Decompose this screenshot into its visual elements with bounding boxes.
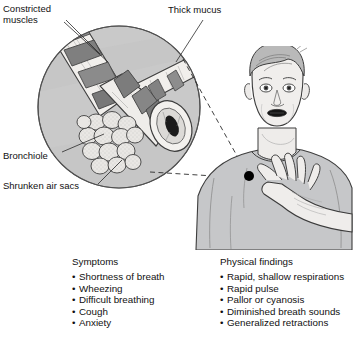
list-item: Rapid, shallow respirations: [220, 271, 359, 283]
physical-findings-column: Physical findings Rapid, shallow respira…: [220, 256, 359, 329]
head: [245, 43, 310, 126]
list-item: Diminished breath sounds: [220, 306, 359, 318]
list-item: Generalized retractions: [220, 317, 359, 329]
list-item: Difficult breathing: [72, 294, 212, 306]
list-item: Rapid pulse: [220, 283, 359, 295]
bronchiole-inset: [38, 8, 200, 188]
clinical-summary: Symptoms Shortness of breath Wheezing Di…: [0, 256, 359, 340]
symptoms-heading: Symptoms: [72, 256, 212, 268]
list-item: Wheezing: [72, 283, 212, 295]
symptoms-list: Shortness of breath Wheezing Difficult b…: [72, 271, 212, 329]
label-thick-mucus: Thick mucus: [168, 4, 221, 15]
symptoms-column: Symptoms Shortness of breath Wheezing Di…: [72, 256, 212, 329]
label-bronchiole: Bronchiole: [3, 150, 48, 161]
chest-marker-dot: [244, 171, 254, 181]
leader-thick-mucus: [176, 20, 203, 62]
physical-findings-list: Rapid, shallow respirations Rapid pulse …: [220, 271, 359, 329]
list-item: Pallor or cyanosis: [220, 294, 359, 306]
label-constricted-muscles: Constricted muscles: [3, 3, 51, 25]
patient-figure: [196, 43, 352, 250]
list-item: Shortness of breath: [72, 271, 212, 283]
list-item: Anxiety: [72, 317, 212, 329]
open-mouth: [268, 109, 287, 116]
list-item: Cough: [72, 306, 212, 318]
label-shrunken-air-sacs: Shrunken air sacs: [3, 180, 79, 191]
physical-findings-heading: Physical findings: [220, 256, 359, 268]
